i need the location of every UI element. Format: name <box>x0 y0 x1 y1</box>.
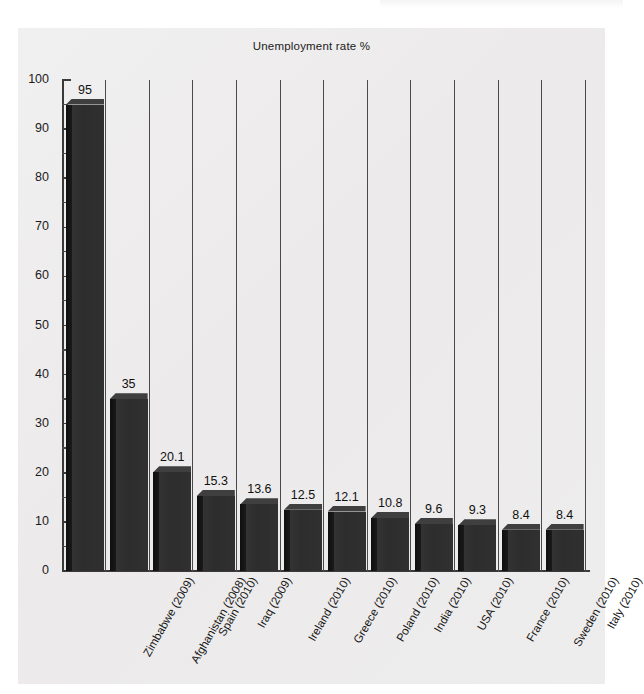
bar-value-label: 12.5 <box>284 488 322 502</box>
y-tick-label: 0 <box>42 563 49 577</box>
bar-front-face <box>72 105 104 571</box>
x-axis-label: Zimbabwe (2009) <box>141 575 196 658</box>
bar-front-face <box>377 518 409 571</box>
bar <box>371 512 409 571</box>
bar-front-face <box>508 530 540 571</box>
bar-front-face <box>421 524 453 571</box>
bar-value-label: 35 <box>110 377 148 391</box>
x-axis-label: Ireland (2010) <box>306 575 352 643</box>
bar-value-label: 13.6 <box>240 482 278 496</box>
bar-front-face <box>552 530 584 571</box>
x-axis-labels: Zimbabwe (2009)Afghanistan (2008)Spain (… <box>62 575 602 694</box>
column-separator-line <box>105 80 106 572</box>
column-separator-line <box>454 80 455 572</box>
column-separator-line <box>498 80 499 572</box>
plot-area: 0102030405060708090100 953520.115.313.61… <box>62 80 587 571</box>
y-tick-label: 40 <box>35 367 49 381</box>
y-tick-label: 90 <box>35 121 49 135</box>
bar-value-label: 95 <box>66 83 104 97</box>
y-tick-label: 80 <box>35 170 49 184</box>
bar-top-face <box>458 519 496 525</box>
chart-panel: Unemployment rate % 01020304050607080901… <box>18 28 605 684</box>
bar-top-face <box>240 498 278 504</box>
column-separator-line <box>541 80 542 572</box>
column-separator-line <box>323 80 324 572</box>
column-separator-line <box>280 80 281 572</box>
bar <box>415 518 453 571</box>
y-tick-label: 20 <box>35 465 49 479</box>
column-separator-line <box>585 80 586 572</box>
page-scan-artifact <box>380 0 623 9</box>
bar <box>546 524 584 571</box>
x-axis-label: Greece (2010) <box>351 575 398 645</box>
bar <box>197 490 235 571</box>
y-tick-label: 50 <box>35 318 49 332</box>
y-tick-mark <box>62 79 71 81</box>
bar-front-face <box>116 399 148 571</box>
bar-top-face <box>371 512 409 518</box>
x-axis-label: USA (2010) <box>475 575 515 632</box>
bar <box>502 524 540 571</box>
bar-front-face <box>159 472 191 571</box>
x-axis-label: Poland (2010) <box>394 575 441 644</box>
bar-top-face <box>546 524 584 530</box>
bar <box>110 393 148 571</box>
bar-front-face <box>290 510 322 571</box>
column-separator-line <box>410 80 411 572</box>
chart-title: Unemployment rate % <box>18 40 605 52</box>
bar-top-face <box>328 506 366 512</box>
column-separator-line <box>236 80 237 572</box>
column-separator-line <box>149 80 150 572</box>
bar <box>328 506 366 571</box>
y-tick-label: 60 <box>35 268 49 282</box>
bar-top-face <box>284 504 322 510</box>
bar-top-face <box>110 393 148 399</box>
bar <box>153 466 191 571</box>
x-axis-label: France (2010) <box>525 575 572 644</box>
y-tick-label: 100 <box>28 72 49 86</box>
bar-front-face <box>334 512 366 571</box>
bar-value-label: 15.3 <box>197 474 235 488</box>
bar-top-face <box>153 466 191 472</box>
bar <box>240 498 278 571</box>
x-axis-label: Afghanistan (2008) <box>188 575 247 665</box>
bar-value-label: 10.8 <box>371 496 409 510</box>
x-axis-label: Iraq (2009) <box>255 575 294 630</box>
bar-value-label: 9.6 <box>415 502 453 516</box>
bar-front-face <box>203 496 235 571</box>
bar-value-label: 12.1 <box>328 490 366 504</box>
y-tick-label: 30 <box>35 416 49 430</box>
bar-top-face <box>415 518 453 524</box>
bar-top-face <box>66 99 104 105</box>
y-tick-label: 70 <box>35 219 49 233</box>
bar-top-face <box>502 524 540 530</box>
y-tick-label: 10 <box>35 514 49 528</box>
bar-front-face <box>464 525 496 571</box>
bar <box>458 519 496 571</box>
column-separator-line <box>367 80 368 572</box>
bar-value-label: 20.1 <box>153 450 191 464</box>
bar-value-label: 8.4 <box>502 508 540 522</box>
bar <box>284 504 322 571</box>
bar-front-face <box>246 504 278 571</box>
bar <box>66 99 104 571</box>
bar-value-label: 8.4 <box>546 508 584 522</box>
column-separator-line <box>192 80 193 572</box>
bar-top-face <box>197 490 235 496</box>
bar-value-label: 9.3 <box>458 503 496 517</box>
